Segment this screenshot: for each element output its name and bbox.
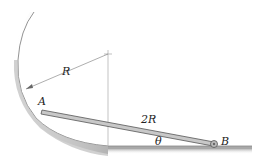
- label-angle: θ: [155, 136, 162, 147]
- label-rod-length: 2R: [141, 114, 156, 125]
- label-point-b: B: [221, 136, 229, 147]
- curved-surface: [13, 12, 108, 156]
- pin-b: [211, 141, 218, 148]
- center-mark: [104, 50, 112, 146]
- label-point-a: A: [38, 96, 46, 107]
- arrowhead-icon: [26, 84, 33, 89]
- floor: [108, 146, 252, 154]
- label-radius: R: [62, 66, 70, 77]
